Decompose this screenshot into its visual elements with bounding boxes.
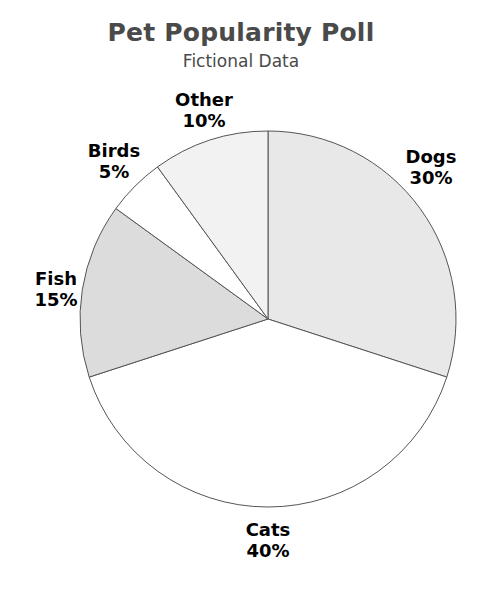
- pie-label-fish-value: 15%: [10, 289, 102, 310]
- pie-label-birds-name: Birds: [62, 140, 166, 161]
- pie-label-cats-name: Cats: [212, 519, 324, 540]
- chart-figure: Pet Popularity Poll Fictional Data Dogs …: [0, 0, 482, 591]
- pie-label-dogs-value: 30%: [385, 167, 477, 188]
- pie-label-dogs-name: Dogs: [385, 146, 477, 167]
- pie-label-cats: Cats 40%: [212, 519, 324, 561]
- pie-label-birds-value: 5%: [62, 161, 166, 182]
- pie-label-birds: Birds 5%: [62, 140, 166, 182]
- pie-label-fish-name: Fish: [10, 268, 102, 289]
- pie-label-cats-value: 40%: [212, 540, 324, 561]
- pie-label-other-value: 10%: [152, 110, 256, 131]
- pie-label-other-name: Other: [152, 89, 256, 110]
- pie-label-dogs: Dogs 30%: [385, 146, 477, 188]
- pie-label-fish: Fish 15%: [10, 268, 102, 310]
- pie-label-other: Other 10%: [152, 89, 256, 131]
